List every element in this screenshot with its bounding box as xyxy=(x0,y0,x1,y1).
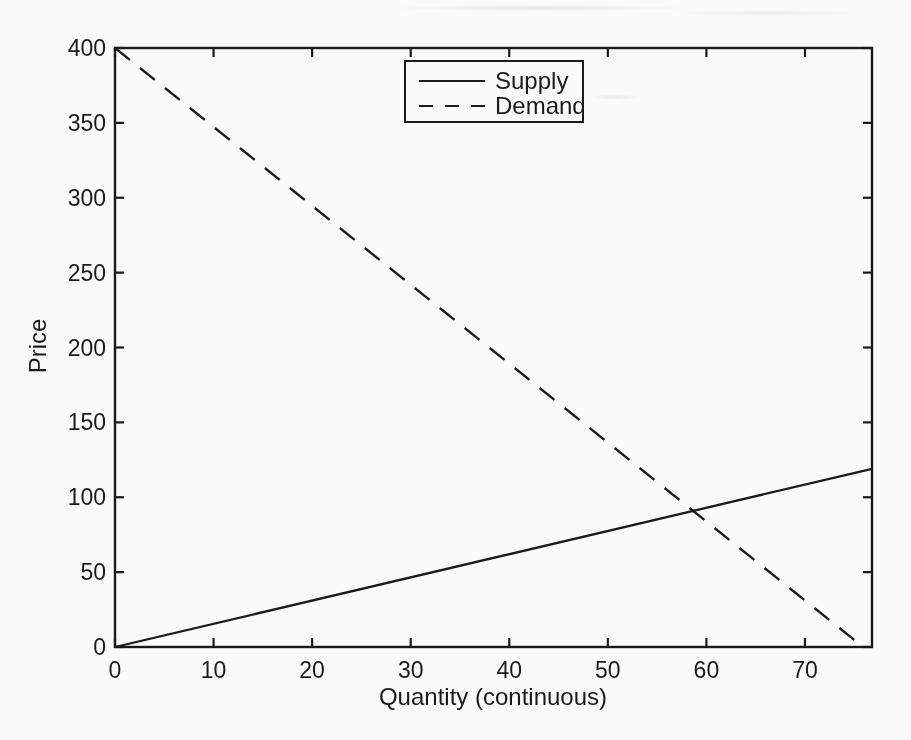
figure-canvas: 010203040506070050100150200250300350400S… xyxy=(0,0,911,740)
y-tick-label: 0 xyxy=(93,634,106,660)
y-tick-label: 250 xyxy=(68,260,106,286)
y-tick-label: 150 xyxy=(68,409,106,435)
x-tick-label: 20 xyxy=(299,657,325,683)
x-tick-label: 70 xyxy=(792,657,818,683)
y-tick-label: 200 xyxy=(68,335,106,361)
x-tick-label: 10 xyxy=(201,657,227,683)
y-tick-label: 300 xyxy=(68,185,106,211)
demand-line xyxy=(115,48,863,647)
x-tick-label: 30 xyxy=(398,657,424,683)
x-tick-label: 40 xyxy=(496,657,522,683)
supply-demand-chart: 010203040506070050100150200250300350400S… xyxy=(0,0,911,740)
y-axis-label: Price xyxy=(24,319,51,374)
y-tick-label: 400 xyxy=(68,35,106,61)
y-tick-label: 50 xyxy=(80,559,106,585)
x-tick-label: 60 xyxy=(694,657,720,683)
legend-label-demand: Demand xyxy=(495,92,586,119)
x-tick-label: 0 xyxy=(109,657,122,683)
supply-line xyxy=(115,469,872,647)
x-tick-label: 50 xyxy=(595,657,621,683)
y-tick-label: 100 xyxy=(68,484,106,510)
x-axis-label: Quantity (continuous) xyxy=(379,683,607,710)
legend-label-supply: Supply xyxy=(495,67,568,94)
y-tick-label: 350 xyxy=(68,110,106,136)
